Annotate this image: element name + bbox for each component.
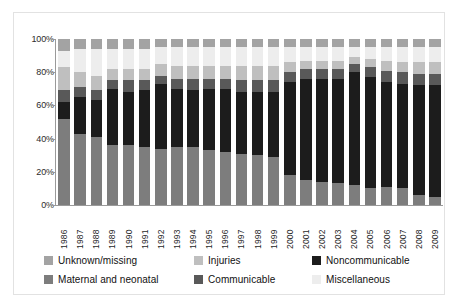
bar-slot	[72, 39, 88, 205]
stacked-bar[interactable]	[220, 39, 232, 205]
stacked-bar[interactable]	[429, 39, 441, 205]
x-label-slot: 1988	[88, 207, 104, 249]
stacked-bar[interactable]	[413, 39, 425, 205]
bar-segment	[300, 61, 312, 69]
legend-item[interactable]: Injuries	[194, 255, 312, 266]
bar-segment	[252, 92, 264, 155]
x-axis-tick-label: 1993	[172, 207, 182, 249]
bar-slot	[121, 39, 137, 205]
stacked-bar[interactable]	[397, 39, 409, 205]
bar-slot	[185, 39, 201, 205]
y-axis-tick	[51, 72, 56, 73]
bar-segment	[316, 182, 328, 205]
x-axis-tick-label: 1990	[124, 207, 134, 249]
bar-segment	[381, 47, 393, 60]
x-label-slot: 1999	[266, 207, 282, 249]
bar-segment	[284, 82, 296, 175]
bar-segment	[381, 61, 393, 71]
bar-segment	[123, 92, 135, 145]
x-axis-tick-label: 1995	[204, 207, 214, 249]
bar-segment	[268, 80, 280, 92]
bar-segment	[74, 49, 86, 72]
stacked-bar[interactable]	[268, 39, 280, 205]
stacked-bar[interactable]	[349, 39, 361, 205]
stacked-bar[interactable]	[58, 39, 70, 205]
bar-segment	[429, 47, 441, 62]
stacked-bar[interactable]	[187, 39, 199, 205]
stacked-bar[interactable]	[300, 39, 312, 205]
bar-segment	[220, 89, 232, 152]
stacked-bar[interactable]	[74, 39, 86, 205]
bar-slot	[88, 39, 104, 205]
bar-segment	[365, 59, 377, 67]
stacked-bar[interactable]	[139, 39, 151, 205]
stacked-bar[interactable]	[203, 39, 215, 205]
bar-segment	[220, 39, 232, 47]
bar-segment	[236, 39, 248, 47]
legend-label: Miscellaneous	[326, 274, 390, 285]
stacked-bar[interactable]	[316, 39, 328, 205]
x-label-slot: 1989	[104, 207, 120, 249]
bar-segment	[155, 149, 167, 205]
x-label-slot: 2003	[330, 207, 346, 249]
stacked-bar[interactable]	[107, 39, 119, 205]
y-axis-tick	[51, 139, 56, 140]
bar-segment	[123, 39, 135, 49]
bar-segment	[349, 57, 361, 64]
bar-segment	[316, 47, 328, 60]
x-axis-tick-label: 1994	[188, 207, 198, 249]
stacked-bar[interactable]	[155, 39, 167, 205]
x-label-slot: 1998	[250, 207, 266, 249]
legend-item[interactable]: Unknown/missing	[44, 255, 194, 266]
legend-item[interactable]: Noncommunicable	[312, 255, 432, 266]
bar-segment	[365, 67, 377, 77]
bar-slot	[201, 39, 217, 205]
bar-segment	[252, 66, 264, 81]
y-axis: 0%20%40%60%80%100%	[14, 13, 54, 213]
bar-segment	[107, 89, 119, 145]
x-axis-tick-label: 2003	[333, 207, 343, 249]
bar-segment	[413, 39, 425, 47]
stacked-bar[interactable]	[252, 39, 264, 205]
bar-segment	[236, 154, 248, 205]
legend-swatch-icon	[194, 256, 203, 265]
bar-segment	[397, 62, 409, 72]
bar-slot	[266, 39, 282, 205]
legend-item[interactable]: Miscellaneous	[312, 274, 432, 285]
bar-segment	[123, 49, 135, 69]
x-axis-labels: 1986198719881989199019911992199319941995…	[56, 207, 443, 249]
bar-segment	[203, 89, 215, 150]
y-axis-tick	[51, 39, 56, 40]
x-axis-tick-label: 2008	[414, 207, 424, 249]
x-label-slot: 1991	[137, 207, 153, 249]
bar-segment	[268, 39, 280, 47]
stacked-bar[interactable]	[171, 39, 183, 205]
x-label-slot: 2005	[362, 207, 378, 249]
bar-segment	[91, 137, 103, 205]
bar-segment	[429, 74, 441, 86]
x-label-slot: 2009	[427, 207, 443, 249]
legend-swatch-icon	[312, 256, 321, 265]
stacked-bar[interactable]	[123, 39, 135, 205]
bar-slot	[56, 39, 72, 205]
bar-segment	[284, 47, 296, 62]
bar-segment	[139, 39, 151, 49]
legend-item[interactable]: Maternal and neonatal	[44, 274, 194, 285]
bar-segment	[74, 39, 86, 49]
bar-segment	[74, 87, 86, 97]
stacked-bar[interactable]	[332, 39, 344, 205]
stacked-bar[interactable]	[284, 39, 296, 205]
stacked-bar[interactable]	[365, 39, 377, 205]
bar-segment	[187, 79, 199, 91]
bar-segment	[397, 84, 409, 189]
stacked-bar[interactable]	[236, 39, 248, 205]
bar-segment	[91, 90, 103, 100]
stacked-bar[interactable]	[381, 39, 393, 205]
bar-segment	[268, 66, 280, 81]
x-label-slot: 1993	[169, 207, 185, 249]
bar-segment	[284, 62, 296, 72]
stacked-bar[interactable]	[91, 39, 103, 205]
legend-item[interactable]: Communicable	[194, 274, 312, 285]
bar-segment	[300, 79, 312, 180]
bar-segment	[284, 39, 296, 47]
